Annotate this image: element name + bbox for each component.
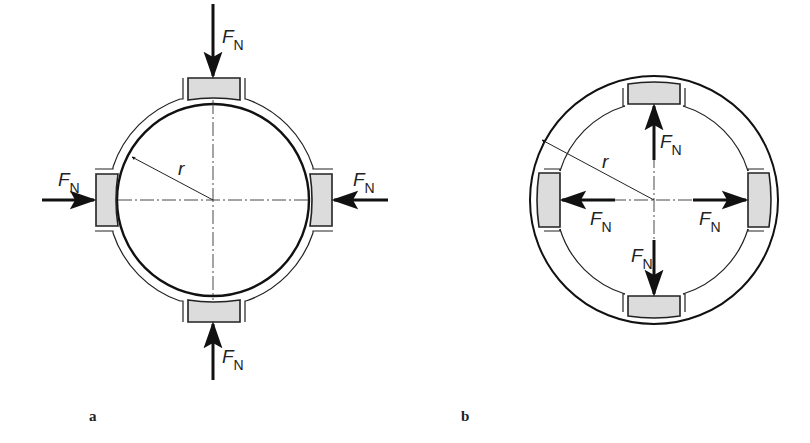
- panel-b-diagram: r FN FN FN FN b: [461, 76, 778, 424]
- radius-label: r: [602, 151, 609, 172]
- panel-caption-a: a: [89, 408, 97, 424]
- force-label-left: FN: [590, 208, 612, 235]
- force-label-bottom: FN: [631, 245, 653, 272]
- force-label-bottom: FN: [222, 346, 244, 373]
- panel-caption-b: b: [461, 408, 469, 424]
- pad-top: [188, 78, 240, 100]
- force-label-left: FN: [58, 169, 80, 196]
- force-label-right: FN: [353, 169, 375, 196]
- radius-arrow: [132, 157, 213, 200]
- pad-top: [628, 82, 680, 104]
- pad-bottom: [628, 296, 680, 318]
- radius-label: r: [178, 158, 185, 179]
- pad-bottom: [188, 300, 240, 322]
- pad-left: [96, 174, 118, 226]
- pad-right: [310, 174, 332, 226]
- pad-right: [748, 173, 771, 227]
- force-label-top: FN: [222, 26, 244, 53]
- panel-a-diagram: r FN FN FN FN a: [42, 4, 388, 424]
- force-label-top: FN: [660, 131, 682, 158]
- force-label-right: FN: [699, 208, 721, 235]
- figure-canvas: r FN FN FN FN a: [0, 0, 810, 443]
- pad-left: [537, 173, 560, 227]
